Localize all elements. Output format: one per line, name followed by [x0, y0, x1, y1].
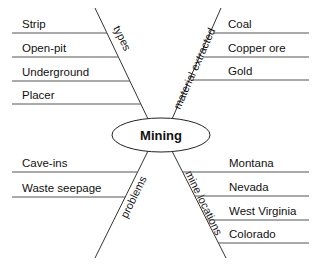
material-item-gold: Gold	[228, 65, 252, 77]
category-label-material-extracted: material extracted	[171, 26, 218, 111]
spider-map-diagram: Mining types Strip Open-pit Underground …	[0, 0, 319, 265]
locations-item-colorado: Colorado	[229, 228, 276, 240]
locations-item-nevada: Nevada	[229, 181, 269, 193]
types-item-open-pit: Open-pit	[22, 42, 67, 54]
material-item-coal: Coal	[228, 18, 252, 30]
branch-mine-locations: mine locations Montana Nevada West Virgi…	[172, 151, 309, 258]
branch-types: types Strip Open-pit Underground Placer	[12, 8, 148, 119]
problems-item-waste-seepage: Waste seepage	[22, 182, 101, 194]
types-item-placer: Placer	[22, 89, 55, 101]
category-label-mine-locations: mine locations	[183, 169, 225, 238]
center-label: Mining	[140, 128, 182, 143]
material-item-copper-ore: Copper ore	[228, 42, 286, 54]
types-item-underground: Underground	[22, 66, 89, 78]
types-item-strip: Strip	[22, 18, 46, 30]
branch-problems: problems Cave-ins Waste seepage	[12, 151, 149, 258]
locations-item-montana: Montana	[229, 157, 274, 169]
problems-spoke	[95, 151, 148, 258]
problems-item-cave-ins: Cave-ins	[22, 157, 68, 169]
locations-item-west-virginia: West Virginia	[229, 205, 297, 217]
branch-material-extracted: material extracted Coal Copper ore Gold	[171, 8, 309, 119]
center-node: Mining	[112, 118, 210, 152]
